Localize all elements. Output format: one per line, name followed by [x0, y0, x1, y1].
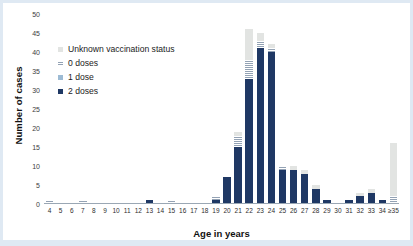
figure-border-bottom: [0, 240, 413, 246]
bar-segment-dose2: [234, 147, 242, 204]
x-axis-tick-label: 7: [81, 207, 85, 214]
bar-slot: 30: [332, 14, 343, 204]
y-axis-tick-label: 35: [32, 68, 40, 75]
bar-segment-unknown: [390, 143, 398, 196]
figure-border-left: [0, 0, 3, 246]
bar-slot: 18: [199, 14, 210, 204]
chart-legend: Unknown vaccination status0 doses1 dose2…: [58, 42, 175, 98]
bar-slot: 33: [366, 14, 377, 204]
bar-segment-dose2: [268, 52, 276, 204]
bar-slot: 17: [188, 14, 199, 204]
bar-segment-dose2: [279, 170, 287, 204]
bar-segment-dose2: [301, 174, 309, 204]
y-axis-tick-label: 30: [32, 87, 40, 94]
bar-slot: 27: [299, 14, 310, 204]
figure-container: Number of cases Age in years 05101520253…: [0, 0, 413, 246]
y-axis-tick-label: 10: [32, 163, 40, 170]
bar-segment-dose0: [245, 60, 253, 79]
bar-slot: 25: [277, 14, 288, 204]
stacked-bar[interactable]: [268, 44, 276, 204]
x-axis-tick-label: 14: [157, 207, 164, 214]
stacked-bar[interactable]: [301, 170, 309, 204]
x-axis-tick-label: 8: [92, 207, 96, 214]
x-axis-tick-label: 17: [190, 207, 197, 214]
x-axis-tick-label: 34: [379, 207, 386, 214]
x-axis-tick-label: 25: [279, 207, 286, 214]
bar-slot: 31: [344, 14, 355, 204]
x-axis-tick-label: 22: [246, 207, 253, 214]
legend-item-dose0[interactable]: 0 doses: [58, 56, 175, 70]
bar-slot: 23: [255, 14, 266, 204]
stacked-bar[interactable]: [368, 189, 376, 204]
x-axis-tick-label: 24: [268, 207, 275, 214]
legend-label: 1 dose: [68, 72, 94, 82]
stacked-bar[interactable]: [234, 132, 242, 204]
bar-slot: 24: [266, 14, 277, 204]
x-axis-tick-label: 16: [179, 207, 186, 214]
bar-slot: 21: [233, 14, 244, 204]
bar-segment-dose2: [223, 177, 231, 204]
legend-swatch-dose1-icon: [58, 75, 63, 80]
y-axis-tick-label: 20: [32, 125, 40, 132]
x-axis-tick-label: 9: [103, 207, 107, 214]
bar-segment-unknown: [257, 33, 265, 41]
stacked-bar[interactable]: [245, 29, 253, 204]
legend-swatch-dose0-icon: [58, 61, 63, 66]
legend-item-unknown[interactable]: Unknown vaccination status: [58, 42, 175, 56]
x-axis-tick-label: 4: [48, 207, 52, 214]
x-axis-tick-label: 29: [323, 207, 330, 214]
x-axis-tick-label: 23: [257, 207, 264, 214]
x-axis-tick-label: 20: [223, 207, 230, 214]
legend-label: 0 doses: [68, 58, 98, 68]
bar-segment-dose2: [257, 48, 265, 204]
bar-segment-dose2: [312, 189, 320, 204]
stacked-bar[interactable]: [279, 166, 287, 204]
x-axis-tick-label: 26: [290, 207, 297, 214]
legend-label: 2 doses: [68, 86, 98, 96]
bar-slot: ≥35: [388, 14, 399, 204]
bar-slot: 16: [177, 14, 188, 204]
x-axis-tick-label: 18: [201, 207, 208, 214]
x-axis-tick-label: 6: [70, 207, 74, 214]
bar-segment-unknown: [245, 29, 253, 59]
bar-slot: 26: [288, 14, 299, 204]
x-axis-tick-label: 30: [334, 207, 341, 214]
x-axis-tick-label: 13: [146, 207, 153, 214]
x-axis-tick-label: 11: [124, 207, 131, 214]
legend-swatch-unknown-icon: [58, 47, 63, 52]
y-axis-tick-label: 40: [32, 49, 40, 56]
stacked-bar[interactable]: [223, 177, 231, 204]
bar-slot: 19: [210, 14, 221, 204]
x-axis-tick-label: 19: [212, 207, 219, 214]
x-axis-tick-label: 31: [345, 207, 352, 214]
x-axis-tick-label: 15: [168, 207, 175, 214]
bar-slot: 29: [321, 14, 332, 204]
y-axis-tick-label: 45: [32, 30, 40, 37]
bar-segment-dose2: [245, 79, 253, 204]
stacked-bar[interactable]: [257, 33, 265, 204]
x-axis-line: [44, 203, 399, 204]
bar-slot: 32: [355, 14, 366, 204]
stacked-bar[interactable]: [390, 143, 398, 204]
legend-swatch-dose2-icon: [58, 89, 63, 94]
x-axis-tick-label: 5: [59, 207, 63, 214]
figure-border-top: [0, 0, 413, 3]
x-axis-tick-label: 32: [357, 207, 364, 214]
stacked-bar[interactable]: [290, 166, 298, 204]
bar-segment-dose2: [290, 170, 298, 204]
x-axis-tick-label: 28: [312, 207, 319, 214]
y-axis-tick-label: 5: [36, 182, 40, 189]
y-axis-title: Number of cases: [13, 46, 24, 166]
x-axis-tick-label: 10: [112, 207, 119, 214]
bar-segment-dose0: [234, 136, 242, 147]
stacked-bar[interactable]: [312, 185, 320, 204]
legend-item-dose2[interactable]: 2 doses: [58, 84, 175, 98]
y-axis-tick-label: 0: [36, 201, 40, 208]
x-axis-tick-label: 21: [235, 207, 242, 214]
legend-label: Unknown vaccination status: [68, 44, 175, 54]
bar-slot: 4: [44, 14, 55, 204]
x-axis-tick-label: 27: [301, 207, 308, 214]
bar-slot: 20: [222, 14, 233, 204]
legend-item-dose1[interactable]: 1 dose: [58, 70, 175, 84]
x-axis-tick-label: 12: [135, 207, 142, 214]
